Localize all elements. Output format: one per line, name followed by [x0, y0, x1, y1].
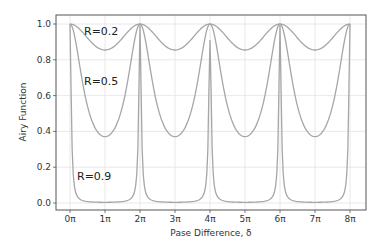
- series-annotation: R=0.9: [77, 170, 111, 183]
- y-tick-label: 1.0: [37, 19, 52, 29]
- x-tick-label: 4π: [204, 214, 216, 224]
- y-tick-label: 0.2: [37, 162, 51, 172]
- x-tick-label: 6π: [274, 214, 286, 224]
- y-tick-label: 0.4: [37, 126, 52, 136]
- x-tick-label: 8π: [344, 214, 356, 224]
- airy-function-chart: 0π1π2π3π4π5π6π7π8π 0.00.20.40.60.81.0 R=…: [0, 0, 385, 249]
- annotations: R=0.2R=0.5R=0.9: [77, 25, 118, 183]
- x-tick-label: 1π: [99, 214, 111, 224]
- x-axis-ticks: 0π1π2π3π4π5π6π7π8π: [64, 210, 356, 224]
- series-annotation: R=0.2: [84, 25, 118, 38]
- x-tick-label: 0π: [64, 214, 76, 224]
- y-axis-label: Airy Function: [18, 83, 28, 142]
- y-tick-label: 0.8: [37, 55, 52, 65]
- x-tick-label: 5π: [239, 214, 251, 224]
- series-annotation: R=0.5: [84, 75, 118, 88]
- x-tick-label: 7π: [309, 214, 321, 224]
- x-tick-label: 2π: [134, 214, 146, 224]
- y-tick-label: 0.0: [37, 198, 52, 208]
- y-tick-label: 0.6: [37, 91, 52, 101]
- y-axis-ticks: 0.00.20.40.60.81.0: [37, 19, 56, 208]
- x-axis-label: Pase Difference, δ: [170, 228, 252, 238]
- x-tick-label: 3π: [169, 214, 181, 224]
